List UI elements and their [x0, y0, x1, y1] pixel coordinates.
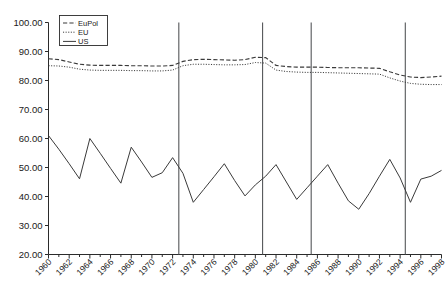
- x-tick-label-1974: 1974: [178, 257, 199, 278]
- x-tick-label-1966: 1966: [95, 257, 116, 278]
- x-tick-label-1984: 1984: [281, 257, 302, 278]
- x-tick-label-1998: 1998: [426, 257, 446, 278]
- legend-label-eupol: EuPol: [78, 19, 98, 28]
- y-tick-label-60: 60.00: [19, 133, 43, 144]
- legend-label-us: US: [78, 37, 88, 46]
- x-tick-label-1972: 1972: [157, 257, 178, 278]
- x-tick-label-1990: 1990: [343, 257, 364, 278]
- chart-container: 20.0030.0040.0050.0060.0070.0080.0090.00…: [0, 0, 446, 288]
- x-tick-label-1994: 1994: [385, 257, 406, 278]
- x-tick-label-1968: 1968: [116, 257, 137, 278]
- x-tick-label-1962: 1962: [54, 257, 75, 278]
- x-tick-label-1986: 1986: [302, 257, 323, 278]
- y-tick-label-100: 100.00: [13, 17, 42, 28]
- legend-label-eu: EU: [78, 28, 88, 37]
- line-chart: 20.0030.0040.0050.0060.0070.0080.0090.00…: [0, 0, 446, 288]
- y-tick-label-90: 90.00: [19, 46, 43, 57]
- series-line-eupol: [49, 57, 442, 77]
- x-tick-label-1980: 1980: [240, 257, 261, 278]
- x-tick-label-1992: 1992: [364, 257, 385, 278]
- x-tick-label-1996: 1996: [405, 257, 426, 278]
- y-tick-label-20: 20.00: [19, 249, 43, 260]
- x-tick-label-1976: 1976: [198, 257, 219, 278]
- x-tick-label-1970: 1970: [136, 257, 157, 278]
- y-tick-label-80: 80.00: [19, 75, 43, 86]
- chart-axes: [49, 23, 442, 255]
- x-tick-label-1964: 1964: [74, 257, 95, 278]
- x-tick-label-1982: 1982: [260, 257, 281, 278]
- x-tick-label-1988: 1988: [323, 257, 344, 278]
- y-tick-label-30: 30.00: [19, 220, 43, 231]
- series-line-us: [49, 136, 442, 210]
- y-tick-label-40: 40.00: [19, 191, 43, 202]
- y-tick-label-70: 70.00: [19, 104, 43, 115]
- x-tick-label-1978: 1978: [219, 257, 240, 278]
- y-tick-label-50: 50.00: [19, 162, 43, 173]
